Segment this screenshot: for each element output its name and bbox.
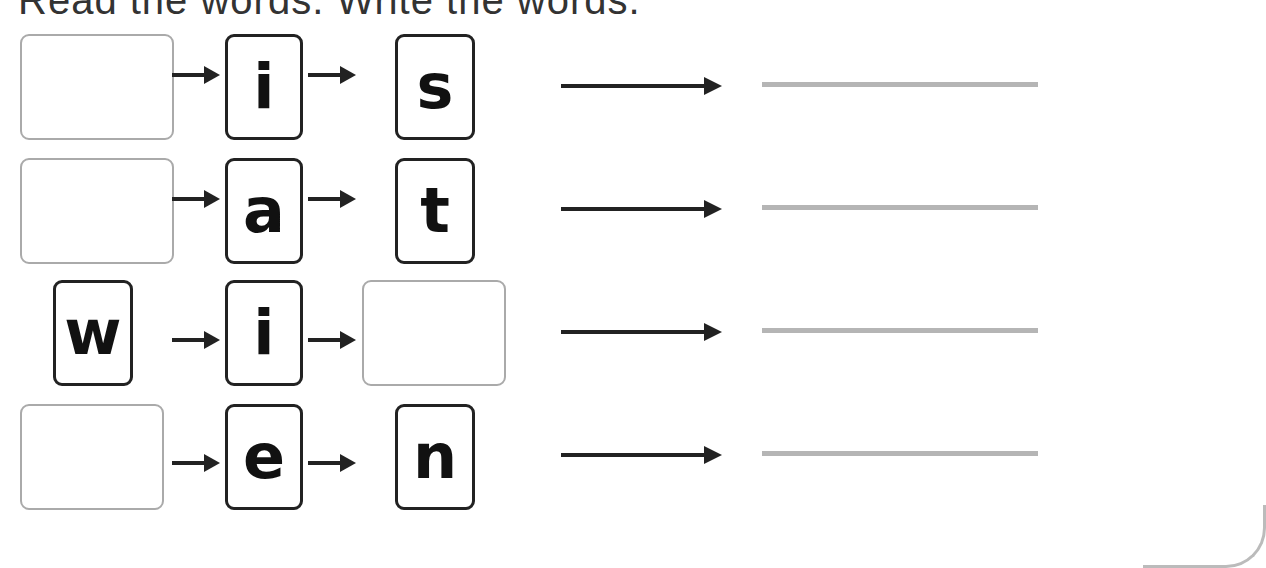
long-arrow-icon <box>561 207 706 211</box>
write-line[interactable] <box>762 451 1038 456</box>
long-arrow-icon <box>561 84 706 88</box>
arrow-icon <box>172 73 206 77</box>
arrow-icon <box>172 197 206 201</box>
arrow-icon <box>172 338 206 342</box>
write-line[interactable] <box>762 205 1038 210</box>
letter-box: t <box>395 158 475 264</box>
blank-letter-box[interactable] <box>362 280 506 386</box>
long-arrow-icon <box>561 453 706 457</box>
blank-letter-box[interactable] <box>20 158 174 264</box>
arrow-icon <box>308 73 342 77</box>
letter-box: a <box>225 158 303 264</box>
arrow-icon <box>172 461 206 465</box>
letter-box: i <box>225 280 303 386</box>
letter-box: e <box>225 404 303 510</box>
arrow-icon <box>308 338 342 342</box>
letter-box: n <box>395 404 475 510</box>
arrow-icon <box>308 461 342 465</box>
letter-box: s <box>395 34 475 140</box>
write-line[interactable] <box>762 328 1038 333</box>
blank-letter-box[interactable] <box>20 404 164 510</box>
arrow-icon <box>308 197 342 201</box>
letter-box: i <box>225 34 303 140</box>
write-line[interactable] <box>762 82 1038 87</box>
instruction-title: Read the words. Write the words. <box>18 0 641 23</box>
blank-letter-box[interactable] <box>20 34 174 140</box>
page-corner-edge <box>1143 505 1266 568</box>
long-arrow-icon <box>561 330 706 334</box>
letter-box: w <box>53 280 133 386</box>
